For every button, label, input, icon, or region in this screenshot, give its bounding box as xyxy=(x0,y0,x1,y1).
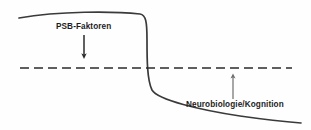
schematic-svg xyxy=(0,0,311,130)
figure-canvas: PSB-Faktoren Neurobiologie/Kognition xyxy=(0,0,311,130)
lower-factor-label: Neurobiologie/Kognition xyxy=(186,100,284,110)
upper-factor-label: PSB-Faktoren xyxy=(56,22,111,32)
